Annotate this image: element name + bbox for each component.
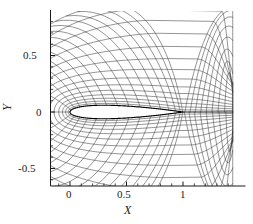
x-tick-label-2: 1 xyxy=(180,188,186,200)
x-tick-label-0: 0 xyxy=(66,188,72,200)
x-tick-label-1: 0.5 xyxy=(117,188,131,200)
airfoil-body xyxy=(70,105,183,119)
y-axis-title: Y xyxy=(0,104,15,111)
y-tick-label-1: 0 xyxy=(36,106,42,118)
y-tick-label-0: 0.5 xyxy=(23,49,37,61)
x-axis-title: X xyxy=(124,203,131,218)
y-tick-label-2: -0.5 xyxy=(18,162,35,174)
airfoil-mesh-figure: 0.5 0 -0.5 0 0.5 1 X Y xyxy=(0,0,253,224)
